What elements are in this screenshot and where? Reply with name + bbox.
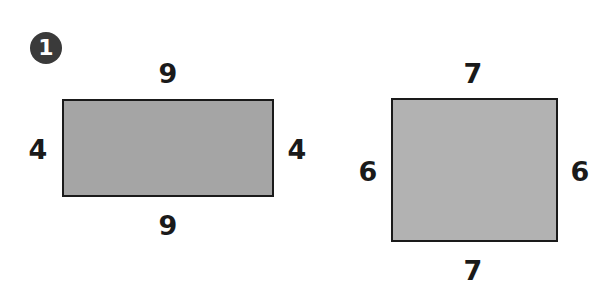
rect2-right-label: 6 bbox=[571, 158, 590, 185]
problem-number-badge: 1 bbox=[30, 32, 62, 64]
rectangle-1 bbox=[62, 99, 274, 197]
rect2-bottom-label: 7 bbox=[464, 257, 483, 284]
rect1-top-label: 9 bbox=[159, 60, 178, 87]
rect2-top-label: 7 bbox=[464, 60, 483, 87]
rectangle-2 bbox=[391, 98, 558, 242]
rect1-bottom-label: 9 bbox=[159, 212, 178, 239]
rect1-right-label: 4 bbox=[288, 136, 307, 163]
rect1-left-label: 4 bbox=[29, 136, 48, 163]
rect2-left-label: 6 bbox=[359, 158, 378, 185]
